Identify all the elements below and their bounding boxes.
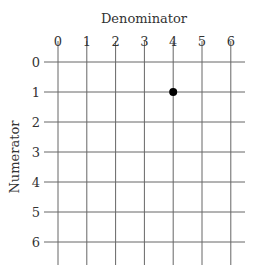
grid-lines	[44, 41, 245, 265]
row-label: 2	[32, 115, 40, 130]
column-label: 5	[198, 34, 206, 49]
row-label: 4	[32, 175, 40, 190]
column-labels: 0123456	[54, 34, 235, 49]
column-label: 4	[169, 34, 177, 49]
data-points	[169, 88, 177, 96]
column-label: 0	[54, 34, 62, 49]
row-label: 5	[32, 205, 40, 220]
data-point	[169, 88, 177, 96]
column-label: 1	[83, 34, 91, 49]
x-axis-title: Denominator	[101, 11, 188, 26]
fraction-grid-diagram: Denominator Numerator 0123456 0123456	[0, 0, 260, 274]
y-axis-title: Numerator	[7, 120, 22, 194]
row-labels: 0123456	[32, 55, 40, 250]
row-label: 3	[32, 145, 40, 160]
row-label: 1	[32, 85, 40, 100]
row-label: 0	[32, 55, 40, 70]
column-label: 6	[227, 34, 235, 49]
column-label: 3	[140, 34, 148, 49]
column-label: 2	[111, 34, 119, 49]
row-label: 6	[32, 235, 40, 250]
